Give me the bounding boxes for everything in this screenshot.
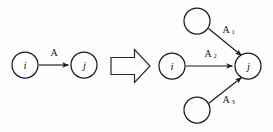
edge-label-A: A <box>50 47 58 58</box>
edge-label-A2: A 2 <box>204 48 216 59</box>
node-label-i-right: i <box>170 60 173 72</box>
node-top-empty <box>184 8 210 34</box>
graph-transformation-figure: A i j A 1 A 2 <box>0 0 273 132</box>
edge-label-A3-base: A <box>222 94 230 105</box>
edge-label-A2-base: A <box>204 48 212 59</box>
node-label-i: i <box>23 59 26 71</box>
edge-label-A3-subscript: 3 <box>232 98 235 105</box>
implies-arrow <box>111 50 150 83</box>
figure-container: A i j A 1 A 2 <box>0 0 273 132</box>
edge-label-A1-subscript: 1 <box>232 28 235 35</box>
edge-label-A3: A 3 <box>222 94 234 105</box>
edge-label-A1-base: A <box>222 24 230 35</box>
node-bottom-empty <box>184 97 210 123</box>
before-graph: A i j <box>12 47 97 78</box>
edge-label-A1: A 1 <box>222 24 234 35</box>
edge-label-A2-subscript: 2 <box>214 52 217 59</box>
after-graph: A 1 A 2 A 3 i j <box>159 8 261 123</box>
